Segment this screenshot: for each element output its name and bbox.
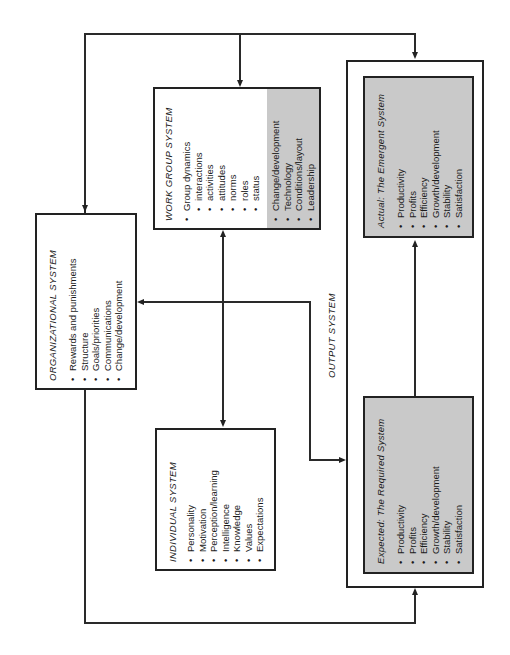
list-item: Technology [282,121,294,221]
expected-title-text: The Required System [375,419,386,517]
arrow-into-output-top [412,52,418,59]
list-item: Leadership [305,121,317,221]
connector-workgroup-individual [222,236,224,422]
actual-system-title: Actual: The Emergent System [375,94,386,228]
work-group-system-title: WORK GROUP SYSTEM [163,108,174,221]
list-item: activities [204,142,216,221]
organizational-system-box: ORGANIZATIONAL SYSTEM Rewards and punish… [35,213,137,390]
work-group-shaded-list: Change/development Technology Conditions… [270,121,316,221]
connector-expected-to-actual [414,246,416,396]
list-item: Expectations [254,470,266,562]
work-group-system-box: WORK GROUP SYSTEM Group dynamics interac… [153,87,321,230]
list-item: Change/development [113,259,125,381]
expected-system-list: Productivity Profits Efficiency Growth/d… [395,466,464,564]
list-item: status [250,142,262,221]
connector-top [84,33,415,35]
expected-title-prefix: Expected: [375,519,386,564]
list-item: interactions [193,142,205,221]
list-item: Communications [102,259,114,381]
actual-emergent-system-box: Actual: The Emergent System Productivity… [363,76,474,238]
list-item: Profits [407,130,419,228]
individual-system-title: INDIVIDUAL SYSTEM [167,462,178,562]
connector-middle-horizontal [143,301,310,303]
list-item: Efficiency [418,466,430,564]
list-item: attitudes [216,142,228,221]
organizational-system-list: Rewards and punishments Structure Goals/… [67,259,125,381]
connector-top-down-output [414,33,416,53]
list-item: Stability [441,130,453,228]
connector-top-down-workgroup [239,33,241,81]
list-item: Structure [79,259,91,381]
output-system-title: OUTPUT SYSTEM [326,293,337,378]
list-item: Personality [185,470,197,562]
list-item: Productivity [395,130,407,228]
organizational-system-title: ORGANIZATIONAL SYSTEM [47,250,58,381]
list-item: Conditions/layout [293,121,305,221]
list-item: Motivation [197,470,209,562]
list-item: Growth/development [430,466,442,564]
individual-system-box: INDIVIDUAL SYSTEM Personality Motivation… [155,428,276,571]
arrow-into-workgroup [237,80,243,87]
list-item: Satisfaction [453,130,465,228]
list-item: Intelligence [220,470,232,562]
arrow-into-workgroup-bottom [220,230,226,237]
list-item: Rewards and punishments [67,259,79,381]
list-item: Productivity [395,466,407,564]
connector-middle-right [309,459,340,461]
actual-title-prefix: Actual: [375,197,386,228]
list-item: Satisfaction [453,466,465,564]
connector-middle-down [309,301,311,461]
list-item: roles [239,142,251,221]
list-item: Group dynamics [181,142,193,221]
individual-system-list: Personality Motivation Perception/learni… [185,470,266,562]
arrow-into-actual [412,240,418,247]
arrow-into-org-right [137,299,144,305]
list-item: Perception/learning [208,470,220,562]
work-group-dynamics-list: Group dynamics interactions activities a… [181,142,262,221]
expected-required-system-box: Expected: The Required System Productivi… [363,396,474,574]
arrow-into-output-bottom [412,588,418,595]
list-item: Knowledge [231,470,243,562]
list-item: Efficiency [418,130,430,228]
list-item: Growth/development [430,130,442,228]
list-item: Stability [441,466,453,564]
arrow-into-output-left [339,457,346,463]
connector-bottom [84,622,415,624]
connector-bottom-up [414,594,416,624]
expected-system-title: Expected: The Required System [375,419,386,564]
list-item: norms [227,142,239,221]
list-item: Profits [407,466,419,564]
actual-title-text: The Emergent System [375,94,386,194]
list-item: Goals/priorities [90,259,102,381]
output-system-box: Actual: The Emergent System Productivity… [346,60,484,588]
arrow-into-individual [220,420,226,427]
actual-system-list: Productivity Profits Efficiency Growth/d… [395,130,464,228]
list-item: Values [243,470,255,562]
arrow-into-org [82,205,88,212]
list-item: Change/development [270,121,282,221]
